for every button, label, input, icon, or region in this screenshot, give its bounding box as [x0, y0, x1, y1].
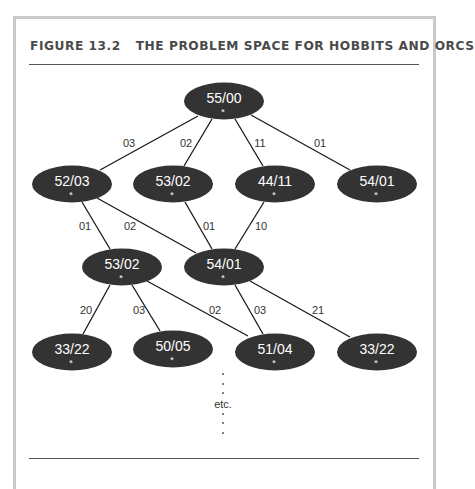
ellipsis-dot: [222, 392, 224, 394]
edge-label: 02: [209, 304, 221, 316]
etc-label: etc.: [214, 398, 232, 410]
node-label: 50/05: [155, 338, 190, 354]
node-mark: *: [374, 190, 378, 200]
node-label: 54/01: [206, 256, 241, 272]
node-label: 52/03: [54, 173, 89, 189]
ellipsis-dot: [222, 413, 224, 415]
edge-label: 01: [79, 220, 91, 232]
state-node: 53/02*: [82, 249, 162, 286]
node-mark: *: [119, 273, 123, 283]
node-mark: *: [221, 273, 225, 283]
state-node: 54/01*: [337, 166, 417, 203]
state-node: 51/04*: [235, 334, 315, 371]
node-mark: *: [221, 107, 225, 117]
state-node: 50/05*: [133, 331, 213, 368]
state-node: 33/22*: [32, 334, 112, 371]
edge-n5-n9: [147, 281, 248, 336]
edge-n1-n6: [97, 198, 196, 253]
continuation-ellipsis: etc.: [214, 373, 232, 434]
node-mark: *: [272, 190, 276, 200]
state-node: 55/00*: [184, 83, 264, 120]
ellipsis-dot: [222, 432, 224, 434]
state-node: 54/01*: [184, 249, 264, 286]
edge-label: 02: [124, 220, 136, 232]
node-mark: *: [69, 358, 73, 368]
edge-label: 20: [80, 304, 92, 316]
edge-labels-group: 03021101010201102003020321: [79, 137, 326, 316]
edge-label: 11: [254, 137, 265, 149]
ellipsis-dot: [222, 373, 224, 375]
node-mark: *: [272, 358, 276, 368]
node-mark: *: [69, 190, 73, 200]
node-label: 53/02: [104, 256, 139, 272]
edge-label: 03: [254, 304, 266, 316]
node-label: 33/22: [359, 341, 394, 357]
edge-label: 03: [123, 137, 135, 149]
ellipsis-dot: [222, 422, 224, 424]
state-node: 44/11*: [235, 166, 315, 203]
node-label: 33/22: [54, 341, 89, 357]
node-label: 55/00: [206, 90, 241, 106]
node-label: 51/04: [257, 341, 292, 357]
ellipsis-dot: [222, 383, 224, 385]
edge-label: 01: [203, 220, 215, 232]
edge-label: 10: [255, 220, 267, 232]
edge-n0-n4: [251, 115, 350, 170]
node-label: 44/11: [258, 173, 292, 189]
node-label: 53/02: [155, 173, 190, 189]
node-label: 54/01: [359, 173, 394, 189]
edge-label: 01: [314, 137, 326, 149]
node-mark: *: [374, 358, 378, 368]
state-node: 53/02*: [133, 166, 213, 203]
state-node: 52/03*: [32, 166, 112, 203]
edge-label: 03: [133, 304, 145, 316]
edge-label: 21: [312, 304, 324, 316]
node-mark: *: [170, 355, 174, 365]
state-node: 33/22*: [337, 334, 417, 371]
edge-label: 02: [180, 137, 192, 149]
node-mark: *: [170, 190, 174, 200]
